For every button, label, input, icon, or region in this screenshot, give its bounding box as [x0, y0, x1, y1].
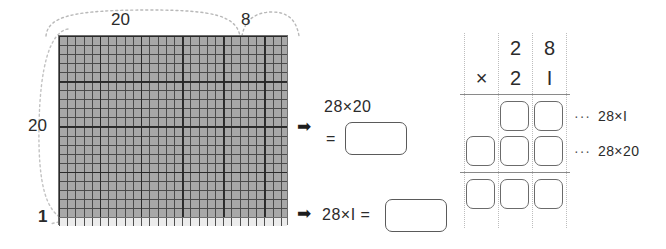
- area-model-grid: [58, 35, 288, 225]
- column-guide-left: [464, 33, 465, 228]
- vertical-multiplication-table: 2 8 × 2 I ··· 28×I ··· 28×20: [460, 33, 570, 228]
- worksheet-canvas: 20 8 20 1 ➡ 28×20 = ➡ 28×I = 2 8 × 2 I: [0, 0, 666, 249]
- equation-top-equals-sign: =: [326, 131, 335, 147]
- area-model-left-span-1-label: 1: [38, 208, 47, 225]
- total-row-box-hundreds[interactable]: [466, 179, 495, 209]
- multiplicand-tens-digit: 2: [500, 38, 531, 58]
- arrow-right-icon-top: ➡: [297, 118, 311, 135]
- column-guide-tens: [498, 33, 499, 228]
- partial-row-1-leader-dots: ···: [574, 108, 591, 124]
- area-model-top-span-20-label: 20: [111, 11, 130, 28]
- column-guide-ones: [532, 33, 533, 228]
- multiplicand-ones-digit: 8: [534, 38, 565, 58]
- multiplier-tens-digit: 2: [500, 68, 531, 88]
- total-separator-rule: [460, 172, 570, 173]
- equation-top-expression: 28×20: [324, 99, 371, 115]
- partial-row-2-box-tens[interactable]: [500, 136, 529, 166]
- partial-row-2-note: 28×20: [598, 143, 639, 159]
- answer-box-28x1[interactable]: [385, 199, 447, 232]
- partial-row-2-box-ones[interactable]: [534, 136, 563, 166]
- equation-bottom-expression: 28×I =: [322, 207, 370, 223]
- partial-row-2-leader-dots: ···: [574, 143, 591, 159]
- area-model-major-gridlines: [59, 36, 287, 217]
- partial-row-1-box-ones[interactable]: [534, 101, 563, 131]
- total-row-box-tens[interactable]: [500, 179, 529, 209]
- area-model-left-span-20-label: 20: [28, 117, 47, 134]
- arrow-right-icon-bottom: ➡: [297, 205, 311, 222]
- area-model-unshaded-row: [59, 217, 287, 226]
- column-guide-right: [566, 33, 567, 228]
- partial-row-1-note: 28×I: [598, 108, 627, 124]
- partial-row-2-box-hundreds[interactable]: [466, 136, 495, 166]
- top-brace-icon: [44, 6, 302, 38]
- partial-row-1-box-tens[interactable]: [500, 101, 529, 131]
- multiplier-ones-digit: I: [534, 68, 565, 88]
- total-row-box-ones[interactable]: [534, 179, 563, 209]
- multiplication-operator-symbol: ×: [466, 68, 497, 88]
- answer-box-28x20[interactable]: [345, 122, 407, 155]
- area-model-shaded-region: [59, 36, 287, 217]
- area-model-top-span-8-label: 8: [241, 11, 250, 28]
- multiplier-separator-rule: [460, 94, 570, 95]
